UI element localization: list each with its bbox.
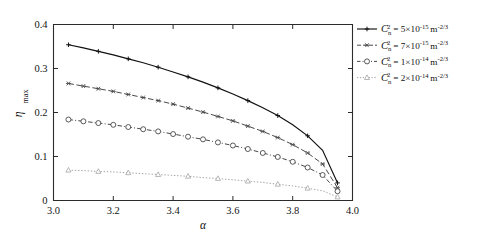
data-point-marker: [275, 136, 280, 140]
data-point-marker: [171, 132, 176, 137]
data-point-marker: [81, 84, 86, 88]
data-point-marker: [81, 119, 86, 124]
data-point-marker: [96, 121, 101, 126]
data-point-marker: [66, 42, 71, 47]
data-point-marker: [186, 106, 191, 110]
legend-entry: Cn2 = 2×10-14m-2/3: [357, 71, 449, 84]
data-point-marker: [156, 172, 161, 177]
y-tick-label: 0.3: [34, 63, 47, 74]
data-point-marker: [305, 151, 310, 155]
data-point-marker: [260, 150, 265, 155]
x-tick-label: 4.0: [346, 205, 359, 216]
data-point-marker: [335, 189, 340, 194]
data-point-marker: [216, 115, 221, 119]
x-tick-label: 3.2: [107, 205, 120, 216]
data-point-marker: [141, 96, 146, 100]
y-tick-label: 0.4: [34, 19, 48, 30]
data-point-marker: [215, 140, 220, 145]
data-point-marker: [111, 89, 116, 93]
chart-canvas: 3.03.23.43.63.84.0 00.10.20.30.4 α η max…: [0, 0, 491, 247]
legend-label: Cn2 = 5×10-15m-2/3: [381, 23, 449, 36]
data-point-marker: [231, 119, 236, 123]
data-point-marker: [126, 93, 131, 97]
data-point-marker: [275, 154, 280, 159]
data-series: [66, 82, 340, 190]
x-tick-label: 3.8: [286, 205, 299, 216]
x-tick-label: 3.0: [47, 205, 60, 216]
data-point-marker: [186, 75, 191, 80]
data-point-marker: [156, 99, 161, 103]
data-point-marker: [66, 117, 71, 122]
data-point-marker: [365, 27, 370, 32]
data-series-group: [66, 42, 340, 198]
data-point-marker: [365, 59, 370, 64]
y-tick-label: 0.2: [34, 107, 47, 118]
data-point-marker: [305, 165, 310, 170]
x-axis-label: α: [200, 219, 207, 231]
legend-label: Cn2 = 7×10-15m-2/3: [381, 39, 449, 52]
data-point-marker: [96, 87, 101, 91]
y-axis-label-max: max: [21, 90, 30, 104]
data-point-marker: [201, 110, 206, 114]
legend-entry: Cn2 = 7×10-15m-2/3: [357, 39, 449, 52]
series-line: [68, 120, 337, 192]
data-point-marker: [216, 86, 221, 91]
data-point-marker: [171, 102, 176, 106]
data-point-marker: [245, 124, 250, 128]
y-axis-label: η max: [12, 90, 30, 118]
y-tick-labels: 00.10.20.30.4: [34, 19, 48, 206]
data-point-marker: [141, 127, 146, 132]
series-markers: [66, 117, 340, 194]
data-point-marker: [290, 143, 295, 147]
figure-container: 3.03.23.43.63.84.0 00.10.20.30.4 α η max…: [0, 0, 491, 247]
data-point-marker: [126, 57, 131, 62]
data-point-marker: [246, 98, 251, 103]
data-point-marker: [365, 43, 370, 47]
data-point-marker: [156, 65, 161, 70]
data-point-marker: [320, 162, 325, 166]
legend-entry: Cn2 = 5×10-15m-2/3: [357, 23, 449, 36]
data-point-marker: [66, 82, 71, 86]
y-tick-label: 0.1: [34, 151, 47, 162]
data-point-marker: [111, 122, 116, 127]
series-line: [68, 170, 337, 197]
data-series: [66, 117, 340, 194]
y-tick-label: 0: [42, 195, 47, 206]
series-markers: [66, 82, 340, 190]
data-point-marker: [320, 172, 325, 177]
chart-legend: Cn2 = 5×10-15m-2/3Cn2 = 7×10-15m-2/3Cn2 …: [357, 23, 449, 85]
series-line: [68, 45, 337, 183]
data-point-marker: [230, 143, 235, 148]
data-point-marker: [290, 159, 295, 164]
data-point-marker: [126, 125, 131, 130]
data-point-marker: [305, 185, 310, 190]
x-tick-label: 3.4: [167, 205, 181, 216]
data-point-marker: [260, 130, 265, 134]
legend-label: Cn2 = 2×10-14m-2/3: [381, 71, 449, 84]
x-tick-labels: 3.03.23.43.63.84.0: [47, 205, 359, 216]
data-point-marker: [156, 129, 161, 134]
y-axis-label-eta: η: [12, 111, 25, 117]
data-series: [66, 167, 340, 198]
x-tick-label: 3.6: [226, 205, 239, 216]
legend-entry: Cn2 = 1×10-14m-2/3: [357, 55, 449, 68]
data-point-marker: [96, 169, 101, 174]
legend-label: Cn2 = 1×10-14m-2/3: [381, 55, 449, 68]
data-point-marker: [245, 147, 250, 152]
data-point-marker: [66, 167, 71, 172]
data-point-marker: [186, 174, 191, 179]
data-point-marker: [201, 137, 206, 142]
data-point-marker: [96, 49, 101, 54]
data-point-marker: [186, 134, 191, 139]
series-line: [68, 83, 337, 187]
data-point-marker: [245, 178, 250, 183]
